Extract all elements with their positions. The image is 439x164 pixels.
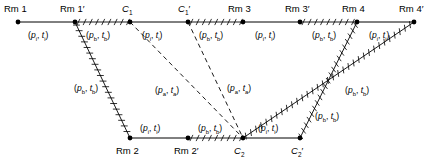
- node-dot-rm4p: [412, 20, 417, 25]
- node-label-rm4: Rm 4: [342, 4, 365, 14]
- edge-top-c1p-rm3: [188, 19, 243, 25]
- edge-label-lbl-rm2p-c2: (pb, tb): [198, 124, 222, 133]
- edge-label-lbl-rm1-rm1p: (pi, ti): [28, 31, 48, 40]
- diagram-svg: [0, 0, 439, 164]
- edge-label-lbl-rm3p-rm4: (pb, tb): [312, 31, 336, 40]
- node-label-c2: C2: [234, 146, 244, 156]
- edge-label-lbl-c1-c1p: (pi, ti): [142, 31, 162, 40]
- node-label-rm3: Rm 3: [228, 4, 251, 14]
- node-dot-rm1: [16, 20, 21, 25]
- node-dot-c1p: [186, 20, 191, 25]
- edge-label-lbl-diag-left: (pb, tb): [74, 84, 98, 93]
- node-dot-rm2: [128, 136, 133, 141]
- edge-label-lbl-diag-r1: (pb, tb): [345, 86, 369, 95]
- node-dot-rm4: [355, 20, 360, 25]
- edge-label-lbl-rm3-rm3p: (pi, ti): [255, 31, 275, 40]
- edge-label-lbl-diag-r2: (pb, tb): [315, 112, 339, 121]
- edge-label-lbl-diag-mid2: (pa, ta): [227, 84, 251, 93]
- node-dot-c2p: [298, 136, 303, 141]
- node-dot-rm3: [241, 20, 246, 25]
- node-label-rm2p: Rm 2′: [174, 146, 198, 156]
- node-label-c1p: C1′: [178, 4, 190, 14]
- edge-label-lbl-rm1p-c1: (pb, tb): [86, 31, 110, 40]
- node-dot-c2: [241, 136, 246, 141]
- edge-label-lbl-rm2-rm2p: (pi, ti): [140, 124, 160, 133]
- edge-top-rm1p-c1: [75, 19, 130, 25]
- node-dot-rm2p: [186, 136, 191, 141]
- edge-label-lbl-c2-c2p: (pi, ti): [258, 124, 278, 133]
- node-label-rm3p: Rm 3′: [285, 4, 309, 14]
- node-dot-rm3p: [298, 20, 303, 25]
- node-dot-c1: [128, 20, 133, 25]
- edge-label-lbl-c1p-rm3: (pb, tb): [199, 31, 223, 40]
- node-label-rm1p: Rm 1′: [60, 4, 84, 14]
- edge-label-lbl-diag-mid: (pa, ta): [155, 86, 179, 95]
- edge-bot-rm2p-c2: [188, 135, 243, 141]
- diagram-canvas: Rm 1Rm 1′C1C1′Rm 3Rm 3′Rm 4Rm 4′Rm 2Rm 2…: [0, 0, 439, 164]
- node-label-rm4p: Rm 4′: [399, 4, 423, 14]
- node-dot-rm1p: [73, 20, 78, 25]
- node-label-c1: C1: [122, 4, 132, 14]
- edge-top-rm3p-rm4: [300, 19, 357, 25]
- edge-label-lbl-rm4-rm4p: (pi, ti): [369, 31, 389, 40]
- node-label-c2p: C2′: [291, 146, 303, 156]
- node-label-rm2: Rm 2: [116, 146, 139, 156]
- node-label-rm1: Rm 1: [4, 4, 27, 14]
